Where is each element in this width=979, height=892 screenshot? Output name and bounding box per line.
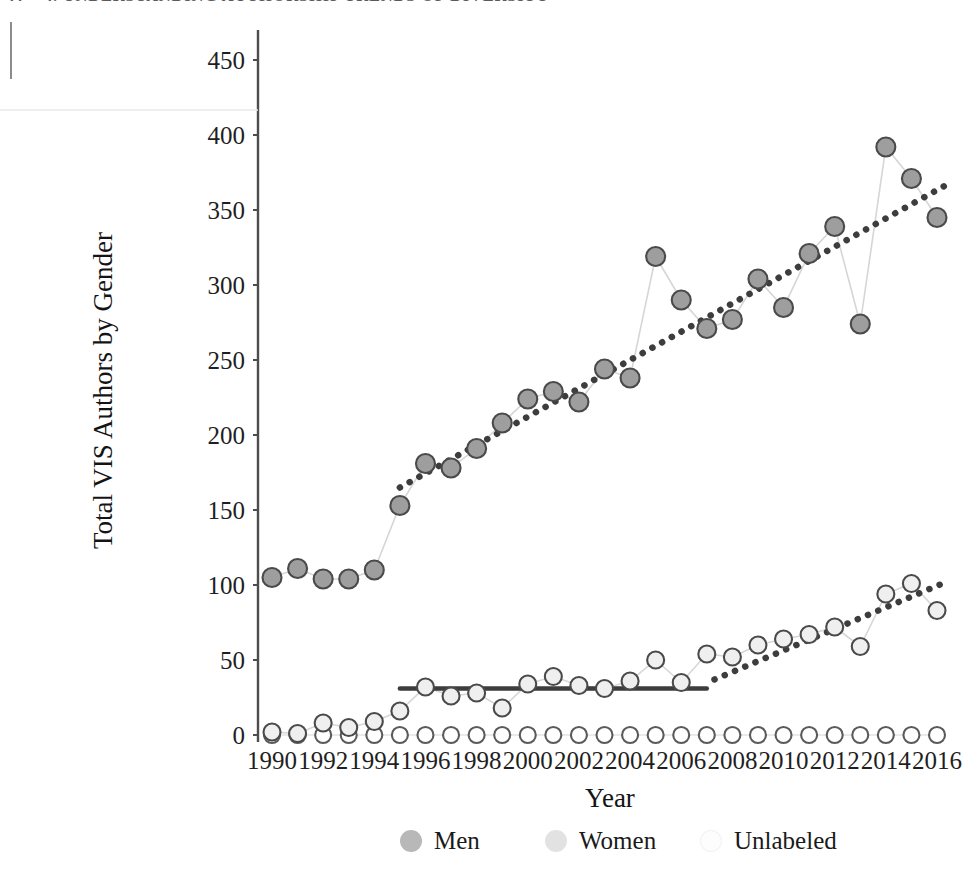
- legend-item-unlabeled[interactable]: Unlabeled: [700, 828, 837, 853]
- x-tick-2016: 2016: [902, 748, 972, 773]
- series-markers-women: [264, 575, 946, 742]
- y-tick-150: 150: [175, 498, 245, 523]
- y-tick-350: 350: [175, 198, 245, 223]
- y-tick-200: 200: [175, 423, 245, 448]
- chart-legend: MenWomenUnlabeled: [0, 828, 979, 868]
- y-tick-100: 100: [175, 573, 245, 598]
- legend-swatch-men-icon: [400, 830, 422, 852]
- legend-label: Men: [434, 828, 480, 853]
- legend-label: Women: [579, 828, 656, 853]
- legend-item-men[interactable]: Men: [400, 828, 480, 853]
- x-axis-title: Year: [405, 783, 815, 814]
- y-tick-450: 450: [175, 48, 245, 73]
- y-tick-300: 300: [175, 273, 245, 298]
- y-tick-50: 50: [175, 648, 245, 673]
- y-tick-400: 400: [175, 123, 245, 148]
- legend-item-women[interactable]: Women: [545, 828, 656, 853]
- legend-swatch-women-icon: [545, 830, 567, 852]
- legend-swatch-unlabeled-icon: [700, 830, 722, 852]
- y-tick-0: 0: [175, 723, 245, 748]
- y-tick-250: 250: [175, 348, 245, 373]
- series-markers-unlabeled: [264, 727, 945, 743]
- chart-figure: 050100150200250300350400450 199019921994…: [0, 0, 979, 892]
- y-axis-title: Total VIS Authors by Gender: [88, 226, 119, 556]
- legend-label: Unlabeled: [734, 828, 837, 853]
- series-markers-men: [263, 138, 947, 589]
